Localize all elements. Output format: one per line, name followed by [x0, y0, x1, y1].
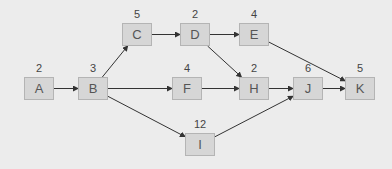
duration-I: 12 — [185, 118, 215, 130]
duration-E: 4 — [239, 8, 269, 20]
node-D: D — [180, 23, 210, 46]
duration-B: 3 — [78, 62, 108, 74]
duration-K: 5 — [345, 62, 375, 74]
duration-C: 5 — [122, 8, 152, 20]
duration-D: 2 — [180, 8, 210, 20]
node-F: F — [172, 77, 202, 100]
node-I: I — [185, 133, 215, 156]
duration-J: 6 — [293, 62, 323, 74]
node-C: C — [122, 23, 152, 46]
edge-B-I — [108, 96, 185, 136]
node-K: K — [345, 77, 375, 100]
node-B: B — [78, 77, 108, 100]
node-H: H — [239, 77, 269, 100]
duration-F: 4 — [172, 62, 202, 74]
node-J: J — [293, 77, 323, 100]
edge-D-H — [208, 46, 242, 77]
duration-H: 2 — [239, 62, 269, 74]
node-A: A — [24, 77, 54, 100]
edge-I-J — [215, 96, 293, 136]
node-E: E — [239, 23, 269, 46]
network-diagram: 2 A 3 B 5 C 2 D 4 E 4 F 2 H 6 J 5 K 12 I — [0, 0, 392, 169]
duration-A: 2 — [24, 62, 54, 74]
